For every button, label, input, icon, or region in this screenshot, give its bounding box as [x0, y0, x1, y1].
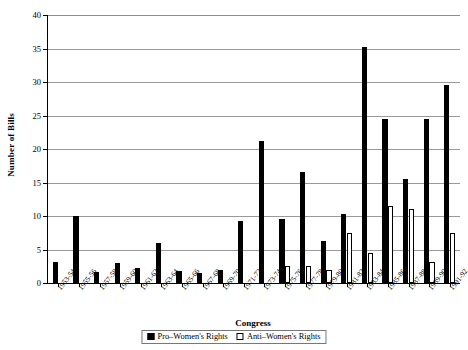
- bar-group: [254, 15, 275, 283]
- chart-legend: Pro–Women's Rights Anti–Women's Rights: [141, 330, 326, 344]
- x-axis-title: Congress: [47, 318, 459, 328]
- bar-group: [357, 15, 378, 283]
- y-tick-label: 35: [33, 44, 42, 53]
- bar-pro-womens-rights: [362, 47, 367, 284]
- bar-group: [151, 15, 172, 283]
- bar-anti-womens-rights: [409, 209, 414, 283]
- y-tick-label: 10: [33, 212, 42, 221]
- bar-group: [192, 15, 213, 283]
- plot-area: 0510152025303540: [47, 15, 460, 284]
- bar-group: [213, 15, 234, 283]
- bar-group: [275, 15, 296, 283]
- bar-group: [110, 15, 131, 283]
- bar-group: [172, 15, 193, 283]
- y-tick-label: 5: [37, 245, 41, 254]
- legend-swatch-anti-icon: [237, 333, 244, 340]
- bar-group: [295, 15, 316, 283]
- bar-pro-womens-rights: [444, 85, 449, 283]
- bar-group: [233, 15, 254, 283]
- y-axis-title: Number of Bills: [2, 0, 20, 290]
- bar-pro-womens-rights: [403, 179, 408, 283]
- bar-pro-womens-rights: [382, 119, 387, 283]
- legend-item-anti: Anti–Women's Rights: [237, 332, 321, 341]
- bar-group: [316, 15, 337, 283]
- bar-pro-womens-rights: [259, 141, 264, 283]
- y-axis-title-label: Number of Bills: [6, 113, 16, 177]
- bar-pro-womens-rights: [53, 262, 58, 283]
- y-tick-label: 0: [37, 279, 41, 288]
- y-tick: [43, 283, 48, 284]
- bar-group: [398, 15, 419, 283]
- bar-group: [89, 15, 110, 283]
- y-tick-label: 30: [33, 78, 42, 87]
- legend-label-anti: Anti–Women's Rights: [247, 332, 321, 341]
- bar-chart: Number of Bills 0510152025303540 1953-54…: [0, 0, 468, 350]
- y-tick-label: 25: [33, 111, 42, 120]
- bar-group: [336, 15, 357, 283]
- legend-label-pro: Pro–Women's Rights: [157, 332, 227, 341]
- bar-group: [48, 15, 69, 283]
- bar-group: [419, 15, 440, 283]
- bar-anti-womens-rights: [388, 206, 393, 283]
- y-tick-label: 40: [33, 11, 42, 20]
- bar-group: [130, 15, 151, 283]
- bar-group: [378, 15, 399, 283]
- bar-pro-womens-rights: [300, 172, 305, 283]
- bar-group: [439, 15, 460, 283]
- y-tick-label: 20: [33, 145, 42, 154]
- legend-item-pro: Pro–Women's Rights: [147, 332, 227, 341]
- legend-swatch-pro-icon: [147, 333, 154, 340]
- bars-layer: [48, 15, 460, 283]
- bar-group: [69, 15, 90, 283]
- y-tick-label: 15: [33, 178, 42, 187]
- bar-pro-womens-rights: [424, 119, 429, 283]
